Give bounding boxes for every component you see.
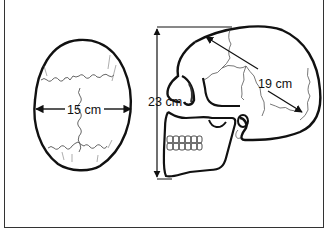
top-view-width-label: 15 cm <box>67 103 101 117</box>
skull-side-view: 19 cm 23 cm <box>148 26 320 179</box>
teeth <box>167 136 202 150</box>
skull-diagram: 15 cm <box>0 0 329 236</box>
side-view-length-label: 19 cm <box>258 77 292 91</box>
skull-top-view: 15 cm <box>34 40 131 170</box>
side-view-height-label: 23 cm <box>148 95 182 109</box>
